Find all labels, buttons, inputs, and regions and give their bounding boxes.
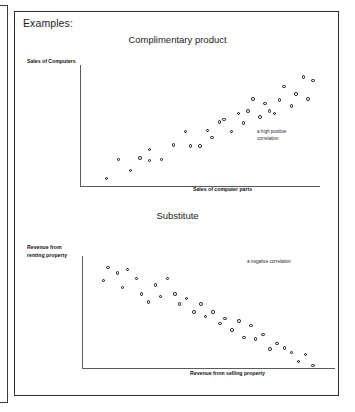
scatter-point [261, 333, 264, 336]
scatter-point [282, 85, 285, 88]
examples-content-frame: Examples: Complimentary product Sales of… [14, 11, 339, 396]
y-axis-label-sales-of-computers: Sales of Computers [27, 58, 76, 66]
scatter-point [268, 109, 271, 112]
scatter-point [290, 104, 293, 107]
scatter-point [302, 75, 305, 78]
scatter-point [105, 177, 108, 180]
scatter-point [173, 292, 176, 295]
plot-area-complimentary [80, 65, 320, 186]
scatter-chart-complimentary: Complimentary product Sales of Computers… [15, 12, 340, 212]
scatter-point [148, 148, 151, 151]
scatter-point [206, 129, 209, 132]
x-axis-line [80, 186, 320, 187]
scatter-point [242, 336, 245, 339]
scatter-point [249, 324, 252, 327]
x-axis-label-sales-of-computer-parts: Sales of computer parts [193, 186, 252, 194]
scatter-point [172, 143, 175, 146]
scatter-point [166, 277, 169, 280]
scatter-point [192, 310, 195, 313]
chart-title-complimentary: Complimentary product [15, 34, 340, 45]
scatter-point [160, 158, 163, 161]
scatter-point [278, 98, 281, 101]
x-axis-label-revenue-from-selling-property: Revenue from selling property [190, 370, 265, 378]
scatter-point [258, 115, 261, 118]
scatter-point [129, 169, 132, 172]
scatter-point [273, 112, 276, 115]
scatter-point [237, 112, 240, 115]
scatter-point [159, 295, 162, 298]
scatter-point [135, 277, 138, 280]
scatter-point [230, 328, 233, 331]
scatter-point [102, 279, 105, 282]
scatter-point [147, 300, 150, 303]
scatter-point [223, 317, 226, 320]
scatter-point [222, 118, 225, 121]
scatter-point [311, 364, 314, 367]
scatter-point [106, 266, 109, 269]
scatter-point [121, 286, 124, 289]
y-axis-label-line-1: Revenue from [27, 244, 67, 252]
scatter-point [138, 156, 141, 159]
chart-title-substitute: Substitute [15, 210, 340, 221]
scatter-point [178, 302, 181, 305]
scatter-point [230, 130, 233, 133]
plot-area-substitute [82, 256, 320, 368]
scatter-point [294, 92, 297, 95]
scatter-point [275, 342, 278, 345]
scatter-point [251, 97, 254, 100]
y-axis-line [82, 256, 83, 368]
scatter-point [210, 136, 213, 139]
scatter-point [263, 102, 266, 105]
scatter-point [148, 159, 151, 162]
scatter-point [246, 109, 249, 112]
y-axis-label-revenue-from-renting-property: Revenue from renting property [27, 244, 67, 259]
scatter-point [117, 158, 120, 161]
scatter-point [126, 268, 129, 271]
scatter-point [304, 353, 307, 356]
clipped-left-box [0, 5, 8, 403]
scatter-point [290, 351, 293, 354]
scatter-point [154, 283, 157, 286]
scatter-point [199, 302, 202, 305]
scatter-point [218, 322, 221, 325]
scatter-point [198, 144, 201, 147]
y-axis-label-line-2: renting property [27, 252, 67, 260]
scatter-point [140, 292, 143, 295]
scatter-point [211, 310, 214, 313]
scatter-point [242, 121, 245, 124]
scatter-point [204, 315, 207, 318]
x-axis-line [82, 368, 335, 369]
y-axis-line [80, 65, 81, 186]
scatter-point [185, 297, 188, 300]
scatter-point [306, 97, 309, 100]
scatter-point [268, 347, 271, 350]
scatter-point [311, 79, 314, 82]
scatter-chart-substitute: Substitute Revenue from renting property… [15, 202, 340, 397]
scatter-point [297, 360, 300, 363]
scatter-point [283, 346, 286, 349]
scatter-point [254, 337, 257, 340]
scatter-point [184, 130, 187, 133]
scatter-point [218, 120, 221, 123]
scatter-point [189, 144, 192, 147]
scatter-point [237, 319, 240, 322]
scatter-point [116, 271, 119, 274]
